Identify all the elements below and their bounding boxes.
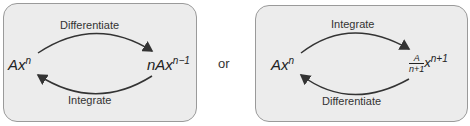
top-label: Integrate: [331, 18, 374, 30]
top-label: Differentiate: [60, 19, 119, 31]
right-expression: nAxn−1: [147, 55, 190, 73]
left-expression: Axn: [8, 55, 31, 73]
separator-text: or: [218, 56, 230, 71]
right-expression: An+1xn+1: [409, 53, 448, 74]
bottom-label: Integrate: [68, 94, 111, 106]
arrow-top-right: [301, 33, 409, 53]
arrow-bottom-left: [38, 75, 152, 94]
bottom-label: Differentiate: [322, 95, 381, 107]
arrow-bottom-right: [301, 75, 409, 95]
arrow-top-left: [38, 33, 152, 53]
left-expression: Axn: [271, 55, 294, 73]
